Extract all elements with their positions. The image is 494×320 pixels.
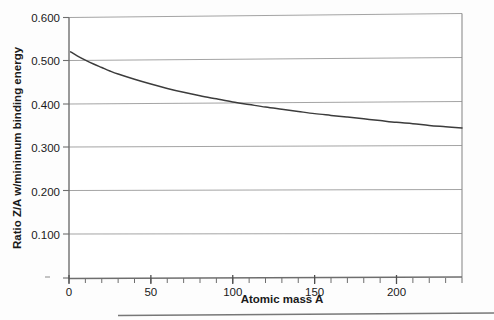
- x-tick-label: 0: [66, 286, 72, 298]
- plot-area-background: [69, 17, 462, 278]
- x-tick-label: 50: [144, 286, 157, 298]
- y-tick-label: 0.200: [31, 186, 60, 198]
- x-axis-tick-labels: 050100150200: [66, 286, 406, 298]
- y-tick-label: 0.500: [31, 55, 60, 67]
- gridline-0600: [69, 14, 462, 18]
- x-tick-label: 200: [387, 286, 406, 298]
- y-axis-ticks: [63, 18, 69, 279]
- y-axis-tick-labels: 0.6000.5000.4000.3000.2000.100: [31, 12, 60, 242]
- y-tick-label: 0.600: [31, 12, 60, 24]
- y-tick-label: 0.400: [31, 99, 60, 111]
- y-tick-label: 0.300: [31, 142, 60, 154]
- y-tick-label: 0.100: [31, 229, 60, 241]
- page-edge-rule: [118, 313, 494, 316]
- x-tick-label: 100: [223, 286, 242, 298]
- binding-energy-ratio-chart: 0.6000.5000.4000.3000.2000.100 050100150…: [0, 0, 494, 320]
- gridline-0100: [69, 234, 462, 235]
- chart-figure: 0.6000.5000.4000.3000.2000.100 050100150…: [0, 0, 494, 320]
- x-axis-title: Atomic mass A: [241, 293, 324, 305]
- y-axis-title: Ratio Z/A w/minimum binding energy: [11, 46, 23, 249]
